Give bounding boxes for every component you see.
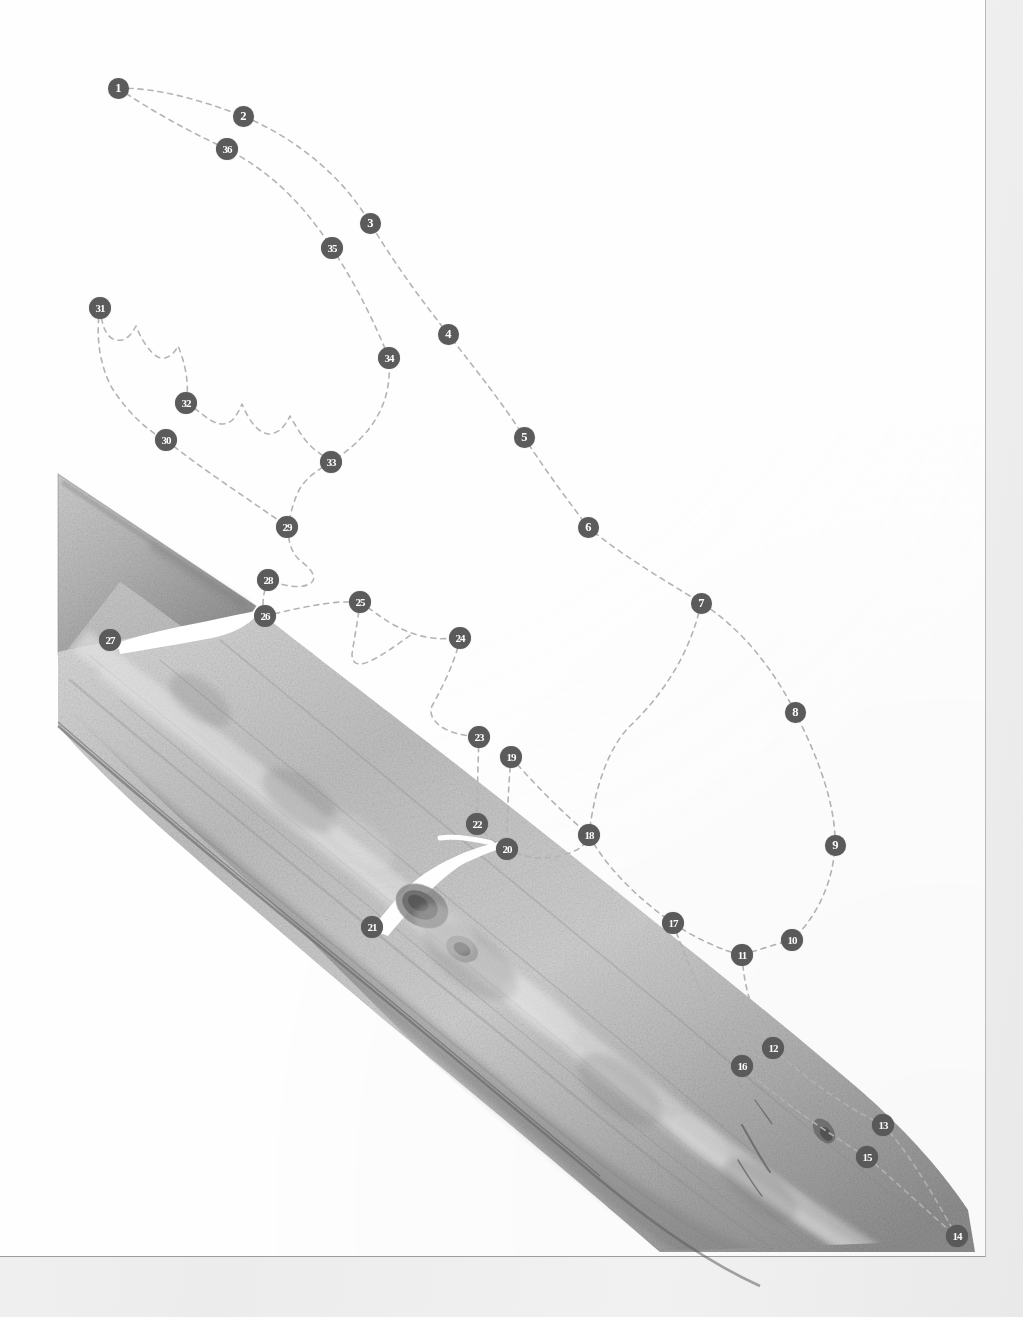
landmark-marker-27[interactable]: 27 — [99, 629, 121, 651]
outline-blade-lower — [118, 88, 389, 462]
landmark-marker-30[interactable]: 30 — [155, 429, 177, 451]
landmark-marker-32[interactable]: 32 — [175, 392, 197, 414]
landmark-marker-11[interactable]: 11 — [731, 944, 753, 966]
landmark-marker-15[interactable]: 15 — [856, 1146, 878, 1168]
landmark-marker-7[interactable]: 7 — [691, 593, 712, 614]
landmark-marker-16[interactable]: 16 — [731, 1055, 753, 1077]
landmark-marker-28[interactable]: 28 — [257, 569, 279, 591]
landmark-marker-23[interactable]: 23 — [468, 726, 490, 748]
outline-24-23 — [431, 638, 479, 737]
landmark-marker-17[interactable]: 17 — [662, 912, 684, 934]
landmark-marker-18[interactable]: 18 — [578, 824, 600, 846]
landmark-marker-19[interactable]: 19 — [500, 746, 522, 768]
landmark-marker-3[interactable]: 3 — [360, 213, 381, 234]
landmark-marker-14[interactable]: 14 — [946, 1225, 968, 1247]
landmark-marker-34[interactable]: 34 — [378, 347, 400, 369]
landmark-marker-33[interactable]: 33 — [320, 451, 342, 473]
landmark-marker-25[interactable]: 25 — [349, 591, 371, 613]
outline-19-20 — [507, 757, 511, 849]
outline-serrate-32-33 — [186, 403, 331, 462]
outline-11-12 — [742, 955, 773, 1048]
landmark-marker-2[interactable]: 2 — [233, 106, 254, 127]
plate-sheet: 1234567891011121314151617181920212223242… — [0, 0, 986, 1257]
outline-19-18 — [511, 757, 589, 835]
outline-13-14 — [883, 1125, 957, 1236]
landmark-outline-overlay — [0, 0, 1023, 1317]
landmark-marker-12[interactable]: 12 — [762, 1037, 784, 1059]
landmark-marker-1[interactable]: 1 — [108, 78, 129, 99]
landmark-marker-20[interactable]: 20 — [496, 838, 518, 860]
figure-page: 1234567891011121314151617181920212223242… — [0, 0, 1023, 1317]
outline-26-25 — [265, 602, 360, 616]
outline-30-29 — [166, 440, 288, 527]
landmark-marker-26[interactable]: 26 — [254, 605, 276, 627]
landmark-marker-31[interactable]: 31 — [89, 297, 111, 319]
landmark-marker-8[interactable]: 8 — [785, 702, 806, 723]
landmark-marker-10[interactable]: 10 — [781, 929, 803, 951]
landmark-marker-35[interactable]: 35 — [321, 237, 343, 259]
outline-15-14 — [867, 1157, 954, 1234]
landmark-marker-29[interactable]: 29 — [276, 516, 298, 538]
outline-12-13 — [773, 1048, 883, 1125]
landmark-marker-36[interactable]: 36 — [216, 138, 238, 160]
outline-31-30 — [98, 308, 166, 440]
outline-lobe-33-29 — [288, 462, 331, 527]
landmark-marker-22[interactable]: 22 — [466, 813, 488, 835]
outline-16-15 — [742, 1066, 867, 1157]
landmark-marker-24[interactable]: 24 — [449, 627, 471, 649]
outline-20-18 — [507, 835, 589, 858]
landmark-marker-4[interactable]: 4 — [438, 324, 459, 345]
landmark-marker-21[interactable]: 21 — [361, 916, 383, 938]
landmark-marker-6[interactable]: 6 — [578, 517, 599, 538]
outline-17-16 — [673, 923, 742, 1066]
outline-7-18 — [589, 603, 701, 835]
outline-18-17 — [589, 835, 673, 923]
landmark-marker-5[interactable]: 5 — [514, 427, 535, 448]
landmark-marker-9[interactable]: 9 — [825, 835, 846, 856]
landmark-marker-13[interactable]: 13 — [872, 1114, 894, 1136]
outline-25-24 — [360, 602, 460, 639]
outline-23-22 — [477, 737, 479, 824]
